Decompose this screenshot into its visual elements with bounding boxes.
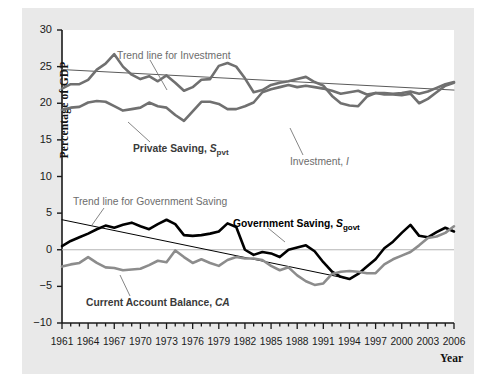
leader-line-2 xyxy=(290,128,303,155)
annotation-government-saving-text: Government Saving, xyxy=(233,218,336,229)
trend-lines-group xyxy=(62,70,454,279)
annotation-government-saving-symbol: S xyxy=(336,218,343,229)
annotation-investment-text: Investment, xyxy=(290,156,346,167)
leader-line-1 xyxy=(128,122,150,142)
leader-line-4 xyxy=(268,228,285,242)
chart-figure: Percentage of GDP Year 302520151050−5−10… xyxy=(0,0,489,383)
annotation-trend-line-investment: Trend line for Investment xyxy=(117,50,231,61)
annotation-private-saving-text: Private Saving, xyxy=(133,143,210,154)
annotation-investment-symbol: I xyxy=(346,156,349,167)
data-series-group xyxy=(62,54,454,285)
leader-line-3 xyxy=(92,208,104,225)
annotation-private-saving-subscript: pvt xyxy=(217,148,229,157)
annotation-private-saving: Private Saving, Spvt xyxy=(133,143,229,154)
annotation-current-account-symbol: CA xyxy=(215,297,230,308)
chart-svg xyxy=(0,0,489,383)
trend-line-0 xyxy=(62,70,454,91)
annotation-government-saving: Government Saving, Sgovt xyxy=(233,218,360,229)
series-line-1 xyxy=(62,82,454,121)
annotation-trend-government-text: Trend line for Government Saving xyxy=(73,196,227,207)
annotation-trend-line-government-saving: Trend line for Government Saving xyxy=(73,196,227,207)
axes-group xyxy=(57,30,454,329)
annotation-government-saving-subscript: govt xyxy=(343,223,360,232)
annotation-investment: Investment, I xyxy=(290,156,349,167)
leader-line-5 xyxy=(120,275,130,296)
annotation-current-account-text: Current Account Balance, xyxy=(86,297,215,308)
annotation-trend-investment-text: Trend line for Investment xyxy=(117,50,231,61)
annotation-current-account-balance: Current Account Balance, CA xyxy=(86,297,230,308)
annotation-private-saving-symbol: S xyxy=(210,143,217,154)
